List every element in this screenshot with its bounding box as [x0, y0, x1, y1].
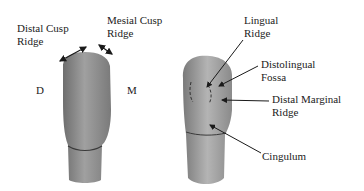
mesial-cusp-ridge-arrow	[99, 45, 112, 54]
label-distolingual-fossa-2: Fossa	[261, 71, 286, 83]
label-distal-cusp-ridge-1: Distal Cusp	[17, 22, 69, 34]
label-distolingual-fossa-1: Distolingual	[261, 58, 315, 70]
label-distal-marginal-ridge-2: Ridge	[272, 106, 298, 118]
label-distal-cusp-ridge-2: Ridge	[17, 35, 43, 47]
label-distal: D	[36, 84, 44, 96]
label-lingual-ridge-2: Ridge	[244, 27, 270, 39]
label-cingulum: Cingulum	[262, 150, 306, 162]
label-lingual-ridge-1: Lingual	[244, 14, 278, 26]
label-mesial-cusp-ridge-1: Mesial Cusp	[107, 14, 162, 26]
label-distal-marginal-ridge-1: Distal Marginal	[272, 93, 341, 105]
label-mesial: M	[127, 84, 137, 96]
right-tooth	[183, 56, 232, 184]
left-tooth	[63, 52, 111, 183]
label-mesial-cusp-ridge-2: Ridge	[107, 27, 133, 39]
